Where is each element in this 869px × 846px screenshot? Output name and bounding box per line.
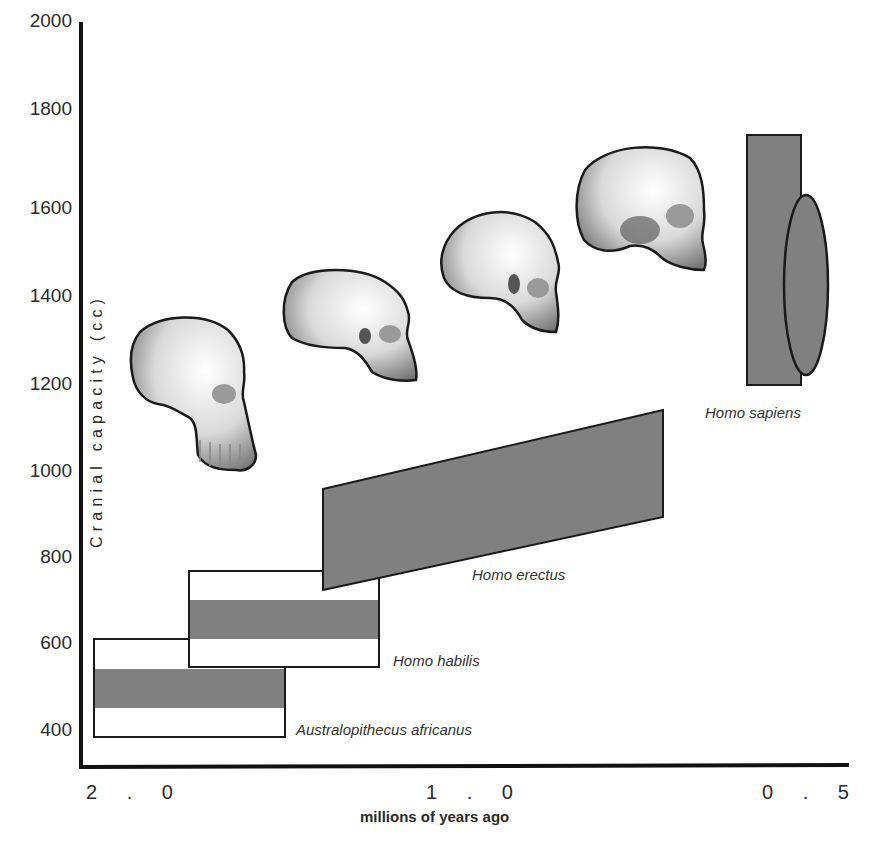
- x-axis-line: [79, 765, 849, 767]
- skull-sapiens-icon: [575, 147, 705, 270]
- chart-canvas: [0, 0, 869, 846]
- x-tick-2-0: 2 . 0: [86, 781, 185, 804]
- skull-habilis-icon: [284, 270, 417, 381]
- x-tick-1-0: 1 . 0: [426, 781, 525, 804]
- label-habilis: Homo habilis: [393, 652, 480, 669]
- skull-erectus-icon: [441, 212, 559, 332]
- bar-sapiens: [747, 135, 828, 385]
- bar-habilis: [189, 571, 379, 667]
- x-axis-title: millions of years ago: [360, 808, 509, 825]
- label-erectus: Homo erectus: [472, 566, 565, 583]
- label-australopithecus: Australopithecus africanus: [296, 721, 472, 738]
- bar-erectus: [323, 410, 663, 590]
- label-sapiens: Homo sapiens: [705, 404, 801, 421]
- skull-australopithecus-icon: [131, 317, 256, 470]
- x-tick-0-5: 0 . 5: [762, 781, 861, 804]
